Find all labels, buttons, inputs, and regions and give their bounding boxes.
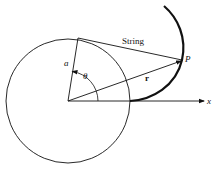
string-label: String: [122, 36, 145, 46]
x-axis-label: x: [206, 96, 211, 106]
radius-a-line: [68, 38, 78, 101]
position-vector-r: [68, 61, 181, 101]
involute-diagram: String P r a θ x: [0, 0, 214, 173]
theta-label: θ: [83, 71, 88, 81]
involute-curve: [130, 6, 183, 101]
point-p-label: P: [184, 54, 191, 64]
a-label: a: [64, 58, 69, 68]
r-label: r: [145, 73, 149, 83]
